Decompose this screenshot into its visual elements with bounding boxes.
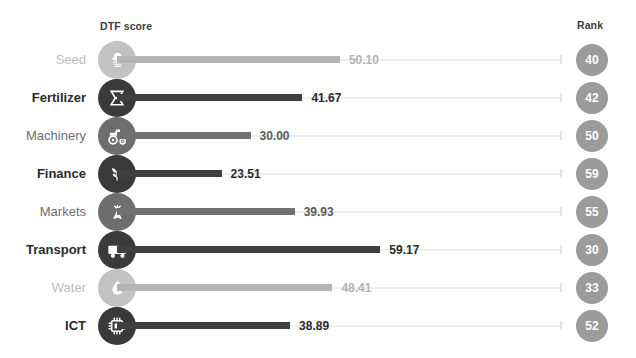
row-value-bar[interactable] — [117, 56, 340, 63]
row-category-label: Transport — [0, 231, 86, 269]
dtf-score-chart: DTF score Rank Seed50.1040Fertilizer41.6… — [0, 0, 636, 358]
row-rank-badge: 52 — [576, 310, 608, 342]
row-rank-badge: 55 — [576, 196, 608, 228]
row-track-end-cap — [560, 321, 562, 330]
row-track-end-cap — [560, 131, 562, 140]
chart-row[interactable]: Machinery30.0050 — [0, 117, 636, 155]
row-rank-badge: 50 — [576, 120, 608, 152]
row-category-label: Markets — [0, 193, 86, 231]
row-category-label: ICT — [0, 307, 86, 345]
chart-row[interactable]: Fertilizer41.6742 — [0, 79, 636, 117]
chart-row[interactable]: Transport59.1730 — [0, 231, 636, 269]
row-track-end-cap — [560, 169, 562, 178]
row-value-label: 30.00 — [260, 117, 290, 155]
row-value-bar[interactable] — [117, 94, 302, 101]
chart-row[interactable]: Water48.4133 — [0, 269, 636, 307]
row-value-label: 41.67 — [311, 79, 341, 117]
row-rank-badge: 30 — [576, 234, 608, 266]
row-value-bar[interactable] — [117, 208, 295, 215]
row-track-end-cap — [560, 55, 562, 64]
dtf-score-column-header: DTF score — [100, 20, 152, 32]
row-category-label: Seed — [0, 41, 86, 79]
row-value-label: 23.51 — [231, 155, 261, 193]
row-track-end-cap — [560, 207, 562, 216]
row-value-label: 59.17 — [389, 231, 419, 269]
chart-row[interactable]: Finance23.5159 — [0, 155, 636, 193]
row-rank-badge: 42 — [576, 82, 608, 114]
row-value-bar[interactable] — [117, 284, 332, 291]
row-value-label: 50.10 — [349, 41, 379, 79]
row-value-bar[interactable] — [117, 170, 222, 177]
row-value-label: 39.93 — [304, 193, 334, 231]
row-category-label: Machinery — [0, 117, 86, 155]
row-category-label: Fertilizer — [0, 79, 86, 117]
rank-column-header: Rank — [577, 19, 603, 31]
row-value-bar[interactable] — [117, 132, 251, 139]
row-rank-badge: 33 — [576, 272, 608, 304]
row-rank-badge: 59 — [576, 158, 608, 190]
row-value-label: 48.41 — [341, 269, 371, 307]
row-track-end-cap — [560, 283, 562, 292]
row-value-bar[interactable] — [117, 322, 290, 329]
chart-row[interactable]: ICT38.8952 — [0, 307, 636, 345]
row-track-end-cap — [560, 245, 562, 254]
row-category-label: Water — [0, 269, 86, 307]
row-track-end-cap — [560, 93, 562, 102]
chart-row[interactable]: Markets39.9355 — [0, 193, 636, 231]
chart-row[interactable]: Seed50.1040 — [0, 41, 636, 79]
row-value-bar[interactable] — [117, 246, 380, 253]
row-value-label: 38.89 — [299, 307, 329, 345]
row-rank-badge: 40 — [576, 44, 608, 76]
row-category-label: Finance — [0, 155, 86, 193]
